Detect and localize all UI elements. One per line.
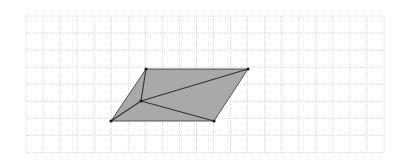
point-top-right: [246, 67, 249, 70]
point-interior: [139, 99, 142, 102]
parallelogram: [111, 69, 248, 121]
point-bottom-right: [212, 119, 215, 122]
point-top-left: [144, 67, 147, 70]
point-bottom-left: [109, 119, 112, 122]
grid-diagram: [0, 0, 398, 167]
